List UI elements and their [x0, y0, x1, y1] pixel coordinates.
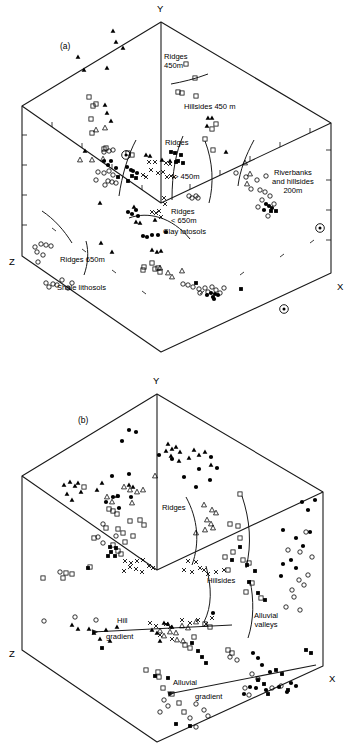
hill-gradient-arrow	[92, 625, 232, 632]
datapoint-cross	[134, 567, 138, 571]
datapoint-filled-circle	[306, 508, 310, 512]
datapoint-open-square	[150, 261, 154, 265]
zone-label-ridges-450m: Ridges 450m	[164, 52, 188, 70]
datapoint-open-circle	[214, 288, 218, 292]
datapoint-filled-circle	[281, 528, 285, 532]
datapoint-filled-square	[230, 558, 234, 562]
panel-b-axis-label-z: Z	[9, 648, 15, 659]
datapoint-open-circle	[235, 658, 239, 662]
datapoint-filled-square	[266, 692, 270, 696]
zone-label-alluvial-valleys: Alluvial valleys	[254, 611, 278, 629]
datapoint-open-square	[138, 518, 142, 522]
datapoint-filled-circle	[289, 681, 293, 685]
datapoint-filled-triangle	[98, 636, 103, 640]
datapoint-filled-square	[174, 160, 178, 164]
datapoint-filled-triangle	[166, 441, 171, 445]
datapoint-filled-square	[204, 661, 208, 665]
datapoint-open-circle	[111, 148, 115, 152]
datapoint-filled-circle	[242, 692, 246, 696]
datapoint-open-circle	[202, 708, 206, 712]
zone-label-line: Riverbanks	[272, 168, 314, 177]
datapoint-open-square	[223, 555, 227, 559]
datapoint-cross	[123, 559, 127, 563]
datapoint-filled-square	[181, 161, 185, 165]
datapoint-filled-square	[106, 554, 110, 558]
datapoint-open-circle	[107, 169, 111, 173]
datapoint-filled-circle	[104, 500, 108, 504]
datapoint-open-triangle	[130, 500, 135, 505]
datapoint-cross	[147, 160, 151, 164]
datapoint-cross	[180, 618, 184, 622]
datapoint-cross	[153, 160, 157, 164]
datapoint-open-square	[259, 596, 263, 600]
datapoint-circled-dot	[280, 305, 289, 314]
datapoint-open-square	[176, 90, 180, 94]
datapoint-filled-square	[100, 646, 104, 650]
datapoint-open-triangle	[103, 125, 108, 130]
datapoint-open-circle	[41, 253, 45, 257]
zone-label-ridges-over-450m-1: Ridges	[165, 138, 189, 147]
datapoint-open-circle	[162, 698, 166, 702]
datapoint-open-circle	[264, 174, 268, 178]
datapoint-filled-circle	[135, 171, 139, 175]
datapoint-filled-triangle	[164, 448, 169, 452]
datapoint-open-triangle	[202, 502, 207, 507]
datapoint-filled-circle	[289, 558, 293, 562]
datapoint-open-circle	[60, 278, 64, 282]
datapoint-open-square	[210, 127, 214, 131]
panel-a-axis-label-z: Z	[9, 256, 15, 267]
datapoint-cross	[156, 171, 160, 175]
datapoint-filled-circle	[294, 536, 298, 540]
datapoint-open-circle	[188, 716, 192, 720]
datapoint-open-circle	[194, 725, 198, 729]
datapoint-filled-circle	[127, 428, 131, 432]
datapoint-filled-circle	[279, 574, 283, 578]
datapoint-filled-triangle	[131, 484, 136, 488]
datapoint-open-circle	[101, 541, 105, 545]
datapoint-filled-circle	[110, 474, 114, 478]
datapoint-filled-triangle	[144, 152, 149, 156]
datapoint-open-square	[244, 590, 248, 594]
datapoint-filled-circle	[156, 233, 160, 237]
datapoint-filled-square	[86, 566, 90, 570]
datapoint-open-circle	[103, 183, 107, 187]
datapoint-filled-triangle	[203, 449, 208, 453]
datapoint-open-circle	[272, 202, 276, 206]
datapoint-filled-circle	[256, 656, 260, 660]
datapoint-open-triangle	[166, 270, 171, 275]
datapoint-open-circle	[260, 198, 264, 202]
curve-z-side	[42, 211, 72, 243]
datapoint-filled-circle	[131, 169, 135, 173]
datapoint-cross	[170, 637, 174, 641]
series-open-square	[41, 485, 263, 714]
datapoint-open-circle	[101, 522, 105, 526]
datapoint-open-square	[203, 137, 207, 141]
datapoint-open-circle	[49, 244, 53, 248]
datapoint-open-circle	[73, 615, 77, 619]
datapoint-filled-triangle	[105, 65, 110, 69]
datapoint-open-square	[182, 710, 186, 714]
datapoint-filled-circle	[114, 166, 118, 170]
zone-label-ridges-under-650m: Ridges < 650m	[171, 207, 197, 225]
datapoint-cross	[194, 560, 198, 564]
datapoint-open-square	[87, 95, 91, 99]
datapoint-filled-triangle	[105, 110, 110, 114]
datapoint-open-circle	[94, 178, 98, 182]
datapoint-filled-square	[134, 176, 138, 180]
datapoint-open-square	[177, 701, 181, 705]
datapoint-filled-square	[114, 546, 118, 550]
datapoint-filled-square	[253, 569, 257, 573]
datapoint-open-triangle	[210, 507, 215, 512]
datapoint-open-square	[144, 668, 148, 672]
datapoint-cross	[162, 196, 166, 200]
panel-a-label: (a)	[60, 41, 70, 51]
datapoint-open-circle	[290, 588, 294, 592]
datapoint-filled-square	[238, 545, 242, 549]
datapoint-open-circle	[191, 285, 195, 289]
datapoint-cross	[141, 558, 145, 562]
datapoint-filled-circle	[129, 495, 133, 499]
datapoint-circled-dot	[316, 224, 325, 233]
panel-b-label: (b)	[78, 415, 88, 425]
datapoint-filled-square	[304, 648, 308, 652]
datapoint-open-circle	[250, 672, 254, 676]
